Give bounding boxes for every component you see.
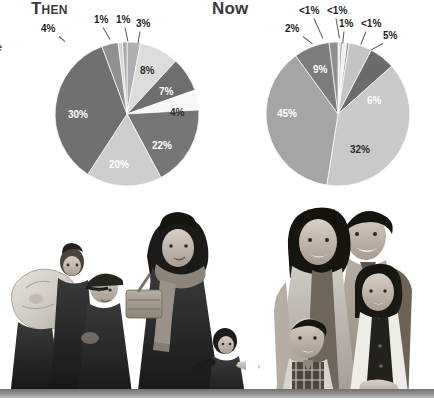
now-slice-label-45: 45%	[277, 109, 297, 119]
chart-title-then: Then	[31, 0, 68, 19]
photo-figure-daughter	[348, 264, 410, 408]
now-callout-5: 5%	[383, 31, 397, 41]
page-root: e Then	[0, 0, 434, 408]
now-slice-label-6: 6%	[367, 96, 381, 106]
then-slice-label-20: 20%	[109, 160, 129, 170]
now-slice-label-32: 32%	[350, 145, 370, 155]
then-leader-1-a	[103, 27, 111, 40]
photo-floor-bar	[0, 389, 434, 398]
charts-area: Then	[0, 0, 434, 196]
now-callout-1: 1%	[339, 19, 353, 29]
then-slice-label-22: 22%	[152, 141, 172, 151]
photo-illustration	[0, 196, 434, 408]
pie-chart-now: 9% 6% 45% 32%	[263, 39, 413, 189]
then-slice-label-30: 30%	[68, 110, 88, 120]
now-leader-lt1-a	[314, 18, 324, 39]
now-slice-label-9: 9%	[313, 65, 327, 75]
then-callout-4-left: 4%	[41, 24, 55, 34]
then-callout-3: 3%	[136, 19, 150, 29]
pie-chart-then: 8% 7% 4% 22% 20% 30%	[52, 39, 202, 189]
now-callout-2: 2%	[285, 24, 299, 34]
photo-band	[0, 196, 434, 408]
then-slice-label-8: 8%	[140, 66, 154, 76]
then-callout-1-a: 1%	[94, 15, 108, 25]
then-slice-label-7: 7%	[159, 87, 173, 97]
now-callout-lt1-b: <1%	[327, 6, 347, 16]
chart-title-now: Now	[212, 0, 248, 19]
photo-bottom-margin	[0, 398, 434, 408]
now-callout-lt1-c: <1%	[361, 19, 381, 29]
now-callout-lt1-a: <1%	[299, 6, 319, 16]
then-callout-1-b: 1%	[116, 15, 130, 25]
then-slice-label-4-right: 4%	[170, 108, 184, 118]
